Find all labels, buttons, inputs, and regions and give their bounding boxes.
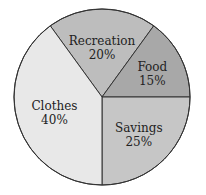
slice-category: Clothes <box>31 99 77 113</box>
slice-category: Savings <box>115 121 163 135</box>
pie-chart: Recreation20%Food15%Savings25%Clothes40% <box>0 0 206 195</box>
slice-percent: 25% <box>125 135 152 149</box>
slice-label-food: Food15% <box>137 60 167 88</box>
slice-percent: 40% <box>41 113 68 127</box>
slice-percent: 15% <box>139 74 166 88</box>
slice-category: Recreation <box>69 34 136 48</box>
slice-category: Food <box>137 60 167 74</box>
slice-percent: 20% <box>89 48 116 62</box>
